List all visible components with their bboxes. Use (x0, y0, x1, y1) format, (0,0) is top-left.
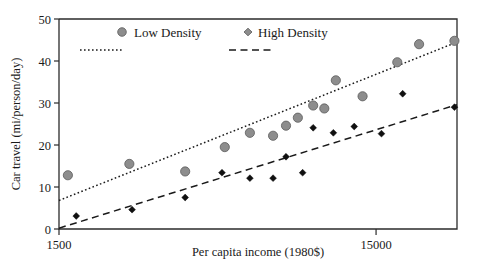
data-point-low-density (414, 40, 423, 49)
y-tick-label: 50 (39, 13, 52, 27)
fit-lines (59, 42, 457, 228)
data-point-low-density (181, 167, 190, 176)
data-point-low-density (331, 76, 340, 85)
legend-marker-high-density (244, 28, 252, 36)
legend-label-low-density: Low Density (134, 25, 202, 40)
data-point-low-density (268, 131, 277, 140)
data-point-high-density (330, 129, 337, 136)
data-point-high-density (246, 175, 253, 182)
data-point-high-density (299, 169, 306, 176)
data-point-low-density (63, 171, 72, 180)
legend: Low Density High Density (80, 25, 328, 50)
x-tick-label: 15000 (360, 238, 391, 252)
data-point-high-density (73, 213, 80, 220)
data-point-high-density (129, 206, 136, 213)
data-point-low-density (220, 143, 229, 152)
data-point-high-density (378, 130, 385, 137)
y-tick-label: 20 (39, 139, 52, 153)
y-tick-label: 10 (39, 181, 52, 195)
y-axis-title: Car travel (mi/person/day) (9, 58, 23, 191)
data-point-high-density (399, 90, 406, 97)
data-point-high-density (310, 124, 317, 131)
data-point-low-density (450, 36, 459, 45)
legend-marker-low-density (118, 28, 127, 37)
y-tick-label: 30 (39, 97, 52, 111)
data-point-low-density (125, 159, 134, 168)
data-point-low-density (320, 104, 329, 113)
y-tick-label: 0 (45, 223, 51, 237)
x-tick-label: 1500 (47, 238, 72, 252)
data-point-low-density (309, 101, 318, 110)
data-point-low-density (245, 128, 254, 137)
fit-line-high-density (59, 105, 457, 228)
data-point-low-density (358, 92, 367, 101)
y-axis-ticks: 01020304050 (39, 13, 60, 237)
y-tick-label: 40 (39, 55, 52, 69)
data-point-high-density (182, 194, 189, 201)
x-axis-title: Per capita income (1980$) (192, 245, 324, 259)
data-point-low-density (393, 58, 402, 67)
legend-label-high-density: High Density (258, 25, 328, 40)
data-point-low-density (281, 121, 290, 130)
scatter-plot-figure: 01020304050 150015000 Low Density High D… (0, 0, 480, 276)
data-points (63, 36, 459, 219)
data-point-high-density (219, 169, 226, 176)
data-point-high-density (270, 175, 277, 182)
data-point-low-density (293, 113, 302, 122)
data-point-high-density (351, 123, 358, 130)
plot-svg: 01020304050 150015000 Low Density High D… (0, 0, 480, 276)
